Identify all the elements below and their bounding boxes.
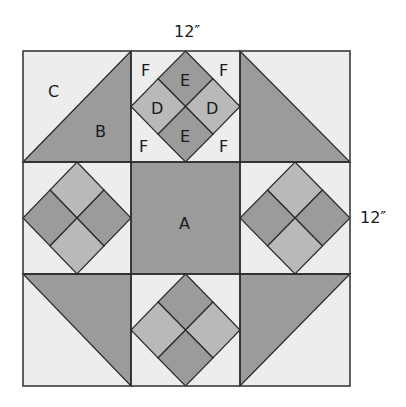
label-d-right: D: [206, 99, 218, 118]
label-e-lower: E: [180, 127, 190, 146]
label-f-bottom-right: F: [219, 137, 228, 156]
label-f-top-right: F: [219, 61, 228, 80]
dimension-label-height: 12″: [360, 208, 386, 227]
label-e-upper: E: [180, 71, 190, 90]
dimension-label-width: 12″: [174, 22, 200, 41]
label-f-top-left: F: [141, 61, 150, 80]
label-c: C: [48, 82, 59, 101]
label-d-left: D: [151, 99, 163, 118]
quilt-block-diagram: C B F F F F E E D D A 12″ 12″: [0, 0, 406, 407]
label-a: A: [179, 214, 190, 233]
label-f-bottom-left: F: [139, 137, 148, 156]
label-b: B: [95, 122, 106, 141]
